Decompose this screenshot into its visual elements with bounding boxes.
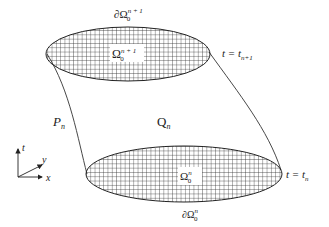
side-label: Pn	[52, 114, 65, 131]
y-axis-arrow	[18, 165, 42, 177]
coordinate-axes: t y x	[18, 142, 51, 183]
bottom-boundary-label: ∂Ωn0	[182, 207, 198, 223]
space-time-slab-diagram: Ωn + 10 ∂Ωn + 10 t = tn+1 Ωn0 ∂Ωn0 t = t…	[0, 0, 329, 227]
x-axis-label: x	[45, 172, 51, 183]
bottom-time-label: t = tn	[286, 168, 309, 183]
top-boundary-label: ∂Ωn + 10	[114, 7, 143, 23]
y-axis-label: y	[41, 154, 47, 165]
t-axis-label: t	[22, 142, 25, 153]
top-time-label: t = tn+1	[222, 47, 253, 62]
volume-label: Qn	[157, 114, 170, 131]
